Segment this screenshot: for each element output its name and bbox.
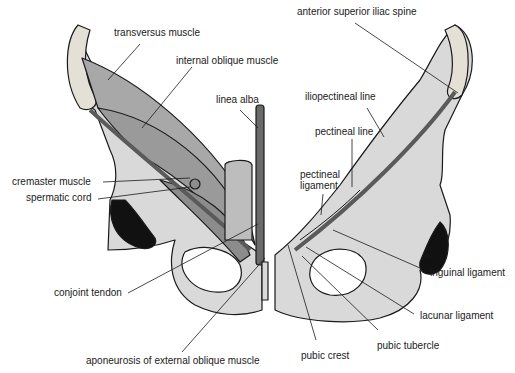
label-lacunar-ligament: lacunar ligament bbox=[420, 310, 493, 321]
label-pubic-crest: pubic crest bbox=[301, 350, 349, 361]
spermatic-cord-ring bbox=[190, 179, 200, 189]
label-pubic-tubercle: pubic tubercle bbox=[377, 340, 439, 351]
label-cremaster-muscle: cremaster muscle bbox=[12, 176, 91, 187]
label-aponeurosis-external-oblique: aponeurosis of external oblique muscle bbox=[86, 355, 259, 366]
label-pectineal-line: pectineal line bbox=[315, 126, 373, 137]
rectus-stump bbox=[225, 160, 252, 240]
linea-alba bbox=[256, 105, 264, 265]
label-pectineal-ligament: pectineal ligament bbox=[300, 169, 350, 191]
label-internal-oblique-muscle: internal oblique muscle bbox=[176, 55, 278, 66]
label-spermatic-cord: spermatic cord bbox=[26, 192, 92, 203]
label-conjoint-tendon: conjoint tendon bbox=[54, 287, 122, 298]
label-inguinal-ligament: inguinal ligament bbox=[430, 267, 505, 278]
artist-mark: GL bbox=[425, 253, 434, 259]
label-linea-alba: linea alba bbox=[216, 94, 259, 105]
label-transversus-muscle: transversus muscle bbox=[114, 27, 200, 38]
label-iliopectineal-line: iliopectineal line bbox=[305, 91, 376, 102]
pubic-symphysis bbox=[262, 262, 268, 300]
anatomy-figure: GL transversus muscle internal oblique m… bbox=[0, 0, 515, 373]
label-anterior-superior-iliac-spine: anterior superior iliac spine bbox=[297, 6, 417, 17]
